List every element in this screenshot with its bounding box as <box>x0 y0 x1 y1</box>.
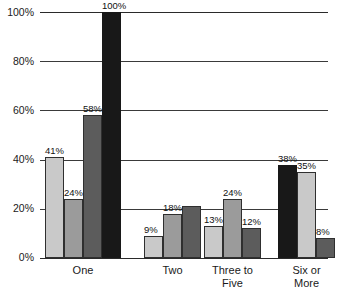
bar[interactable] <box>64 199 83 258</box>
bar-value-label: 38% <box>278 153 297 164</box>
bar-value-label: 13% <box>204 214 223 225</box>
axis-baseline <box>40 258 328 259</box>
bar[interactable] <box>242 228 261 258</box>
bar-value-label: 8% <box>316 226 330 237</box>
gridline-80 <box>40 61 328 62</box>
bar-value-label: 35% <box>297 160 316 171</box>
bar-value-label: 41% <box>45 145 64 156</box>
bar[interactable] <box>144 236 163 258</box>
y-axis-label-40: 40% <box>0 153 34 165</box>
y-axis-label-0: 0% <box>0 251 34 263</box>
bar[interactable] <box>223 199 242 258</box>
bar-value-label: 9% <box>144 224 158 235</box>
bar-value-label: 12% <box>242 216 261 227</box>
bar[interactable] <box>45 157 64 258</box>
bar-value-label: 58% <box>83 103 102 114</box>
category-label: One <box>31 264 135 277</box>
bar[interactable] <box>316 238 335 258</box>
category-label: Six or More <box>264 264 339 290</box>
bar[interactable] <box>182 206 201 258</box>
bar[interactable] <box>102 12 121 258</box>
y-axis-label-60: 60% <box>0 104 34 116</box>
y-axis-label-20: 20% <box>0 202 34 214</box>
bar[interactable] <box>204 226 223 258</box>
bar[interactable] <box>83 115 102 258</box>
bar[interactable] <box>297 172 316 258</box>
gridline-100 <box>40 12 328 13</box>
y-axis-label-80: 80% <box>0 55 34 67</box>
bar[interactable] <box>163 214 182 258</box>
category-label: Three to Five <box>190 264 275 290</box>
plot-area: 41%24%58%100%9%18%13%24%12%38%35%8% <box>40 12 328 258</box>
bar-value-label: 100% <box>102 0 126 11</box>
bar-value-label: 18% <box>163 202 182 213</box>
bar-value-label: 24% <box>223 187 242 198</box>
bar[interactable] <box>278 165 297 258</box>
bar-value-label: 24% <box>64 187 83 198</box>
y-axis-label-100: 100% <box>0 6 34 18</box>
